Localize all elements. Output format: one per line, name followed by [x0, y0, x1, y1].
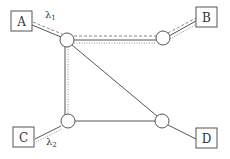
- router-bottom-left: [61, 114, 75, 128]
- network-diagram: A B C D λ1 λ2: [0, 0, 230, 159]
- endpoint-a-label: A: [16, 15, 26, 29]
- router-top-right: [156, 31, 170, 45]
- link-a-r1: [32, 25, 61, 37]
- router-top-left: [60, 33, 74, 47]
- endpoint-c-label: C: [19, 131, 28, 145]
- router-bottom-right: [155, 114, 169, 128]
- endpoint-d-label: D: [202, 132, 212, 146]
- endpoint-b-label: B: [202, 11, 211, 25]
- lambda1-label: λ1: [45, 9, 56, 22]
- link-r2-b: [169, 21, 196, 36]
- link-r4-d: [168, 125, 196, 139]
- link-r1-r4: [72, 45, 157, 116]
- flow-lambda1: [33, 18, 196, 36]
- lambda2-label: λ2: [46, 136, 57, 149]
